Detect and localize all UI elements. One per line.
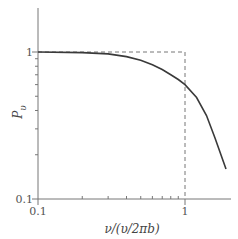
y-axis-title: Pυ [11, 105, 28, 120]
data-curve [38, 52, 226, 169]
x-axis-title: ν/(υ/2πb) [104, 222, 160, 236]
chart: 1 0.1 0.1 1 ν/(υ/2πb) Pυ [0, 0, 238, 239]
x-ticks [38, 196, 185, 205]
svg-text:Pυ: Pυ [11, 105, 28, 120]
x-tick-label-1: 1 [182, 205, 189, 218]
x-tick-label-0.1: 0.1 [29, 205, 47, 218]
dashed-reference-line [38, 52, 185, 199]
y-tick-label-1: 1 [26, 46, 33, 59]
y-ticks [32, 52, 38, 199]
